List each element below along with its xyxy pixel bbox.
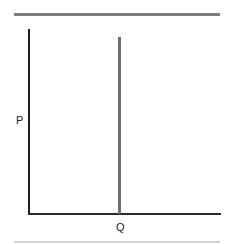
y-axis <box>28 29 30 215</box>
x-axis <box>28 213 221 215</box>
y-axis-label: P <box>16 115 23 126</box>
top-divider <box>14 13 220 16</box>
x-axis-label: Q <box>116 222 125 233</box>
vertical-supply-line <box>118 37 121 214</box>
bottom-divider <box>14 241 220 243</box>
